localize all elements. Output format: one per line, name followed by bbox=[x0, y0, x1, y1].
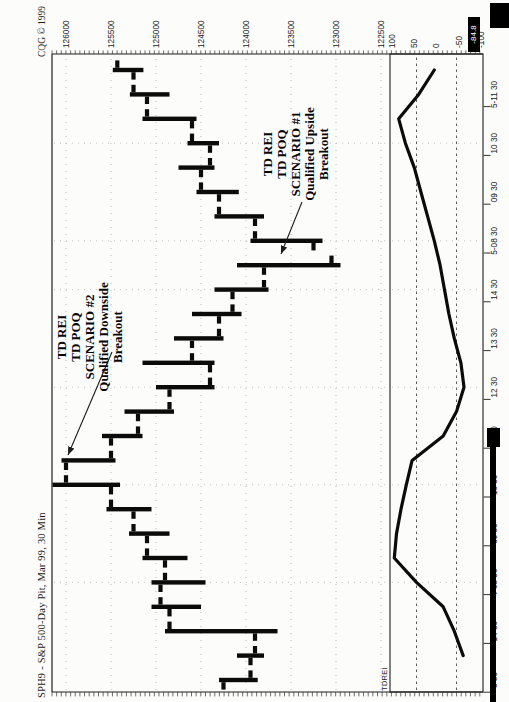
annotation-line: TD POQ bbox=[69, 271, 83, 403]
time-axis-label: 5-11 30 bbox=[490, 80, 499, 108]
price-axis-label: 125000 bbox=[151, 20, 161, 48]
ohlc-bar bbox=[215, 207, 265, 226]
annotation-line: Breakout bbox=[317, 92, 331, 216]
indicator-panel-border bbox=[390, 54, 483, 692]
scan-artifact-edge-strip bbox=[490, 437, 496, 702]
ohlc-bar bbox=[130, 85, 170, 104]
annotation-line: TD REI bbox=[55, 271, 69, 403]
price-axis-label: 123500 bbox=[286, 20, 296, 48]
chart-title: SPH9 - S&P 500-Day Pit, Mar 99, 30 Min bbox=[36, 512, 47, 698]
ohlc-bar bbox=[143, 353, 215, 372]
time-axis-label: 09 30 bbox=[490, 181, 499, 202]
price-axis-label: 125500 bbox=[106, 20, 116, 48]
ohlc-bar bbox=[237, 256, 341, 275]
rotated-chart: 1260001255001250001245001240001235001230… bbox=[0, 0, 509, 702]
rei-axis-label: 50 bbox=[409, 38, 419, 48]
copyright-label: CQG © 1999 bbox=[37, 6, 47, 57]
rei-current-value-badge: -84.8 bbox=[468, 17, 480, 52]
price-axis-label: 124500 bbox=[196, 20, 206, 48]
annotation-line: Qualified Upside bbox=[303, 92, 317, 216]
ohlc-bar bbox=[174, 329, 224, 348]
ohlc-bar bbox=[219, 670, 258, 689]
time-axis-label: 13 30 bbox=[490, 328, 499, 349]
time-axis-label: 5-08 30 bbox=[490, 226, 499, 254]
ohlc-bar bbox=[113, 60, 144, 79]
annotation-line: Qualified Downside bbox=[97, 271, 111, 403]
ohlc-bar bbox=[143, 548, 188, 567]
time-axis-label: 14 30 bbox=[490, 279, 499, 300]
ohlc-bar bbox=[125, 402, 175, 421]
scan-artifact-corner-square bbox=[490, 3, 509, 28]
annotation-line: SCENARIO #2 bbox=[83, 271, 97, 403]
ohlc-bar bbox=[152, 573, 206, 592]
ohlc-bar bbox=[165, 622, 278, 641]
rei-line bbox=[394, 70, 464, 656]
price-axis-label: 124000 bbox=[241, 20, 251, 48]
ohlc-bar bbox=[197, 182, 239, 201]
ohlc-bar bbox=[188, 134, 220, 153]
ohlc-bar bbox=[152, 597, 202, 616]
scanned-chart-page: 1260001255001250001245001240001235001230… bbox=[0, 0, 509, 702]
annotation-line: Breakout bbox=[111, 271, 125, 403]
ohlc-bar bbox=[53, 475, 121, 494]
ohlc-bar bbox=[129, 524, 170, 543]
ohlc-bar bbox=[192, 304, 242, 323]
indicator-name-label: TDREI bbox=[380, 667, 389, 691]
price-axis-label: 126000 bbox=[61, 20, 71, 48]
ohlc-bar bbox=[179, 158, 215, 177]
scan-artifact-blob bbox=[487, 428, 500, 447]
ohlc-bar bbox=[237, 646, 264, 665]
ohlc-bar bbox=[107, 500, 152, 519]
price-axis-label: 123000 bbox=[331, 20, 341, 48]
annotation-scenario-2: TD REI TD POQ SCENARIO #2 Qualified Down… bbox=[55, 271, 125, 403]
ohlc-bar bbox=[102, 426, 143, 445]
annotation-line: TD POQ bbox=[275, 92, 289, 216]
annotation-line: TD REI bbox=[261, 92, 275, 216]
rei-axis-label: -50 bbox=[454, 36, 464, 48]
ohlc-bar bbox=[156, 378, 215, 397]
ohlc-bar bbox=[62, 451, 116, 470]
rei-axis-label: 0 bbox=[431, 43, 441, 48]
annotation-scenario-1: TD REI TD POQ SCENARIO #1 Qualified Upsi… bbox=[261, 92, 331, 216]
price-axis-label: 122500 bbox=[376, 20, 386, 48]
annotation-line: SCENARIO #1 bbox=[289, 92, 303, 216]
ohlc-bar bbox=[215, 280, 269, 299]
time-axis-label: 10 30 bbox=[490, 133, 499, 154]
time-axis-label: 12 30 bbox=[490, 377, 499, 398]
rei-axis-label: 100 bbox=[387, 34, 397, 48]
ohlc-bar bbox=[143, 109, 197, 128]
